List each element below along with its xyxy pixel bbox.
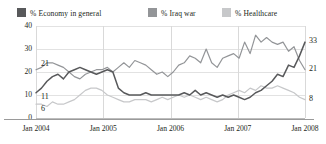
legend-label-economy: % Economy in general <box>30 9 101 18</box>
y-tick-label: 20 <box>2 67 32 76</box>
chart-legend: % Economy in general % Iraq war % Health… <box>0 2 326 16</box>
x-axis-labels: Jan 2004Jan 2005Jan 2006Jan 2007Jan 2008 <box>0 124 326 138</box>
legend-swatch-healthcare <box>222 8 231 17</box>
legend-item-economy: % Economy in general <box>17 2 101 14</box>
legend-label-iraq: % Iraq war <box>161 9 196 18</box>
x-tick-label: Jan 2007 <box>208 124 268 133</box>
series-layer <box>36 26 305 118</box>
value-label-iraq-start: 21 <box>41 59 49 68</box>
x-tick-label: Jan 2004 <box>6 124 66 133</box>
series-line-healthcare <box>36 86 305 107</box>
value-label-healthcare-start: 6 <box>41 104 45 113</box>
x-tick-label: Jan 2008 <box>275 124 326 133</box>
series-line-economy <box>36 42 305 100</box>
legend-item-iraq: % Iraq war <box>148 2 196 14</box>
y-axis-labels: 010203040 <box>0 26 32 118</box>
y-tick-label: 30 <box>2 44 32 53</box>
gridline-vertical <box>305 26 306 118</box>
value-label-healthcare-end: 8 <box>309 94 313 103</box>
value-label-economy-start: 11 <box>41 92 49 101</box>
y-tick-label: 0 <box>2 113 32 122</box>
x-axis-line <box>4 119 314 120</box>
value-label-iraq-end: 21 <box>309 64 317 73</box>
legend-label-healthcare: % Healthcare <box>235 9 277 18</box>
legend-swatch-iraq <box>148 8 157 17</box>
legend-swatch-economy <box>17 8 26 17</box>
series-line-iraq <box>36 35 305 79</box>
y-tick-label: 10 <box>2 90 32 99</box>
poll-trend-chart: % Economy in general % Iraq war % Health… <box>0 0 326 144</box>
plot-area <box>36 26 305 118</box>
y-tick-label: 40 <box>2 21 32 30</box>
x-tick-label: Jan 2005 <box>73 124 133 133</box>
legend-item-healthcare: % Healthcare <box>222 2 277 14</box>
value-label-economy-end: 33 <box>309 36 317 45</box>
x-tick-label: Jan 2006 <box>141 124 201 133</box>
